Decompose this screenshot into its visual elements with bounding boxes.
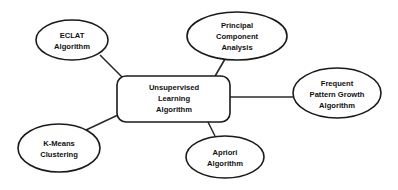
central-node: Unsupervised Learning Algorithm bbox=[117, 76, 230, 122]
node-pca-label-line-2: Component bbox=[216, 32, 259, 41]
central-node-label-line-2: Learning bbox=[158, 94, 190, 103]
node-pca-label-line-1: Principal bbox=[221, 21, 253, 30]
node-fp-growth-label-line-3: Algorithm bbox=[319, 101, 355, 110]
node-eclat: ECLAT Algorithm bbox=[36, 20, 108, 60]
node-apriori-label-line-2: Algorithm bbox=[207, 159, 243, 168]
edge-center-eclat bbox=[100, 55, 123, 78]
node-pca-label-line-3: Analysis bbox=[221, 43, 252, 52]
node-eclat-label-line-1: ECLAT bbox=[60, 31, 85, 40]
node-fp-growth: Frequent Pattern Growth Algorithm bbox=[293, 68, 381, 118]
node-fp-growth-label-line-1: Frequent bbox=[321, 79, 354, 88]
node-pca: Principal Component Analysis bbox=[187, 12, 287, 60]
node-eclat-label-line-2: Algorithm bbox=[54, 42, 90, 51]
node-apriori: Apriori Algorithm bbox=[186, 136, 264, 178]
node-kmeans-label-line-1: K-Means bbox=[43, 139, 75, 148]
mind-map-diagram: Unsupervised Learning Algorithm ECLAT Al… bbox=[0, 0, 398, 190]
node-apriori-label-line-1: Apriori bbox=[213, 148, 238, 157]
edge-center-pca bbox=[214, 59, 225, 78]
node-kmeans: K-Means Clustering bbox=[18, 124, 100, 172]
central-node-label-line-3: Algorithm bbox=[156, 105, 192, 114]
central-node-label-line-1: Unsupervised bbox=[149, 83, 200, 92]
edge-center-kmeans bbox=[86, 115, 118, 130]
node-kmeans-label-line-2: Clustering bbox=[40, 150, 78, 159]
node-fp-growth-label-line-2: Pattern Growth bbox=[310, 90, 365, 99]
